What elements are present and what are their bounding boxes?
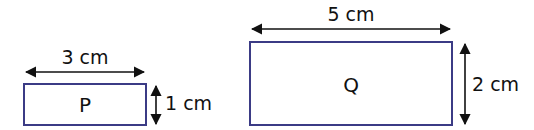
rectangle-q-label: Q [343,73,359,97]
width-label-p: 3 cm [61,46,108,68]
height-label-p: 1 cm [165,92,212,114]
width-label-q: 5 cm [327,3,374,25]
rectangle-p-label: P [79,93,91,117]
shape-q: Q 5 cm 2 cm [250,3,519,125]
height-label-q: 2 cm [472,73,519,95]
diagram-canvas: P 3 cm 1 cm Q 5 cm 2 cm [0,0,534,130]
shape-p: P 3 cm 1 cm [24,46,212,125]
